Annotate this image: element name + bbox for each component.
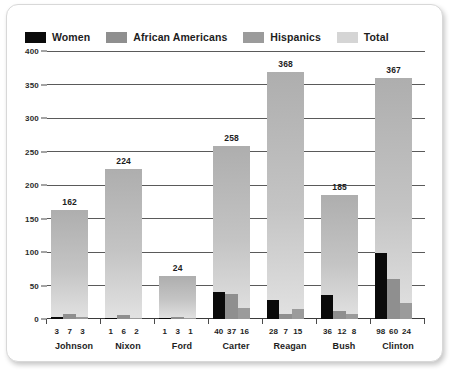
bar-women: [321, 295, 333, 319]
sub-value-label: 37: [227, 327, 236, 336]
sub-value-label: 7: [67, 327, 72, 336]
bars: [371, 51, 425, 319]
x-axis-group-clinton: 986024Clinton: [371, 319, 425, 363]
sub-value-label: 98: [376, 327, 385, 336]
legend-swatch-hispanics: [243, 32, 264, 43]
bar-hispanics: [292, 309, 304, 319]
legend-item-hispanics: Hispanics: [243, 31, 321, 43]
x-axis-group-nixon: 162Nixon: [101, 319, 155, 363]
bar-hispanics: [238, 308, 250, 319]
sub-value-labels: 131: [158, 327, 197, 336]
sub-value-labels: 162: [104, 327, 143, 336]
bar-total: [267, 72, 304, 319]
x-axis-category-label: Ford: [155, 341, 209, 351]
x-axis-group-reagan: 28715Reagan: [263, 319, 317, 363]
y-axis: 400350300250200150100500: [7, 51, 43, 319]
bar-group-reagan: 368: [263, 51, 317, 319]
total-value-label: 367: [375, 65, 412, 75]
sub-value-label: 7: [283, 327, 288, 336]
x-axis-category-label: Reagan: [263, 341, 317, 351]
bar-women: [105, 318, 117, 320]
x-axis-tick-mark: [208, 319, 209, 324]
x-axis-tick-mark: [316, 319, 317, 324]
sub-value-labels: 36128: [320, 327, 359, 336]
bar-group-carter: 258: [209, 51, 263, 319]
x-axis-group-johnson: 373Johnson: [47, 319, 101, 363]
sub-value-labels: 373: [50, 327, 89, 336]
bar-african-americans: [171, 317, 183, 319]
bar-groups: 16222424258368185367: [47, 51, 425, 319]
x-axis-tick-mark: [100, 319, 101, 324]
sub-value-labels: 986024: [374, 327, 413, 336]
x-axis-group-ford: 131Ford: [155, 319, 209, 363]
x-axis-category-label: Nixon: [101, 341, 155, 351]
y-axis-tick-label: 350: [25, 80, 39, 89]
bar-african-americans: [117, 315, 129, 319]
sub-value-label: 15: [293, 327, 302, 336]
legend-swatch-total: [337, 32, 358, 43]
bar-african-americans: [333, 311, 345, 319]
total-value-label: 224: [105, 156, 142, 166]
legend-swatch-african-americans: [106, 32, 127, 43]
sub-value-label: 1: [188, 327, 193, 336]
y-axis-tick-label: 50: [30, 281, 39, 290]
x-axis-category-label: Johnson: [47, 341, 101, 351]
y-axis-tick-label: 300: [25, 114, 39, 123]
total-value-label: 368: [267, 59, 304, 69]
bars: [155, 51, 209, 319]
bar-group-nixon: 224: [101, 51, 155, 319]
x-axis-group-bush: 36128Bush: [317, 319, 371, 363]
sub-value-label: 24: [402, 327, 411, 336]
legend-item-women: Women: [25, 31, 90, 43]
bar-hispanics: [400, 303, 412, 319]
bar-women: [213, 292, 225, 319]
x-axis: 373Johnson162Nixon131Ford403716Carter287…: [47, 319, 425, 363]
bar-hispanics: [76, 317, 88, 319]
y-axis-tick-label: 250: [25, 147, 39, 156]
total-value-label: 162: [51, 197, 88, 207]
sub-value-label: 16: [240, 327, 249, 336]
x-axis-tick-mark: [154, 319, 155, 324]
sub-value-label: 3: [175, 327, 180, 336]
bar-african-americans: [225, 294, 237, 319]
sub-value-label: 3: [80, 327, 85, 336]
bars: [263, 51, 317, 319]
bar-african-americans: [387, 279, 399, 319]
sub-value-label: 28: [269, 327, 278, 336]
y-axis-tick-label: 150: [25, 214, 39, 223]
bar-hispanics: [184, 318, 196, 320]
bar-group-bush: 185: [317, 51, 371, 319]
chart-card: Women African Americans Hispanics Total …: [6, 4, 443, 362]
bar-women: [267, 300, 279, 319]
plot-area: 16222424258368185367: [47, 51, 425, 319]
legend-label-african-americans: African Americans: [133, 31, 227, 43]
sub-value-label: 60: [389, 327, 398, 336]
bars: [47, 51, 101, 319]
chart-legend: Women African Americans Hispanics Total: [25, 29, 405, 45]
y-axis-tick-label: 400: [25, 47, 39, 56]
y-axis-tick-label: 200: [25, 181, 39, 190]
y-axis-tick-label: 0: [34, 315, 39, 324]
bar-african-americans: [279, 314, 291, 319]
legend-item-total: Total: [337, 31, 389, 43]
y-axis-tick-label: 100: [25, 248, 39, 257]
bar-hispanics: [346, 314, 358, 319]
legend-swatch-women: [25, 32, 46, 43]
sub-value-labels: 28715: [266, 327, 305, 336]
bar-group-clinton: 367: [371, 51, 425, 319]
sub-value-label: 3: [54, 327, 59, 336]
sub-value-label: 36: [323, 327, 332, 336]
total-value-label: 258: [213, 133, 250, 143]
sub-value-label: 2: [134, 327, 139, 336]
bar-women: [159, 318, 171, 320]
sub-value-label: 40: [214, 327, 223, 336]
legend-item-african-americans: African Americans: [106, 31, 227, 43]
sub-value-label: 8: [352, 327, 357, 336]
bar-total: [105, 169, 142, 319]
x-axis-tick-mark: [262, 319, 263, 324]
x-axis-category-label: Bush: [317, 341, 371, 351]
bar-group-johnson: 162: [47, 51, 101, 319]
sub-value-label: 1: [162, 327, 167, 336]
x-axis-category-label: Clinton: [371, 341, 425, 351]
bars: [101, 51, 155, 319]
